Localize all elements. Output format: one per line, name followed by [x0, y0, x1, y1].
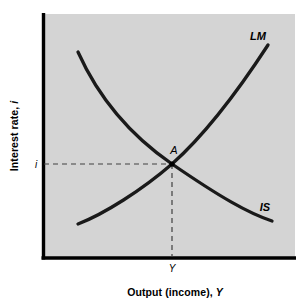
- x-axis-title-text: Output (income),: [127, 286, 216, 298]
- y-axis-tick-label: i: [35, 159, 38, 170]
- y-axis-title-variable: i: [8, 100, 20, 104]
- svg-text:Interest rate, i: Interest rate, i: [8, 100, 20, 171]
- x-axis-tick-label: Y: [169, 263, 177, 274]
- is-lm-figure: LM IS A i Y Interest rate, i Output (inc…: [0, 0, 307, 306]
- equilibrium-point-marker: [169, 161, 174, 166]
- x-axis-title: Output (income), Y: [127, 286, 224, 298]
- y-axis-title: Interest rate, i: [8, 100, 20, 171]
- is-lm-chart-svg: LM IS A i Y Interest rate, i Output (inc…: [0, 0, 307, 306]
- x-axis-title-variable: Y: [216, 286, 224, 298]
- lm-curve-label: LM: [250, 30, 267, 42]
- y-axis-title-text: Interest rate,: [8, 104, 20, 171]
- is-curve-label: IS: [260, 201, 271, 213]
- equilibrium-point-label: A: [169, 144, 177, 156]
